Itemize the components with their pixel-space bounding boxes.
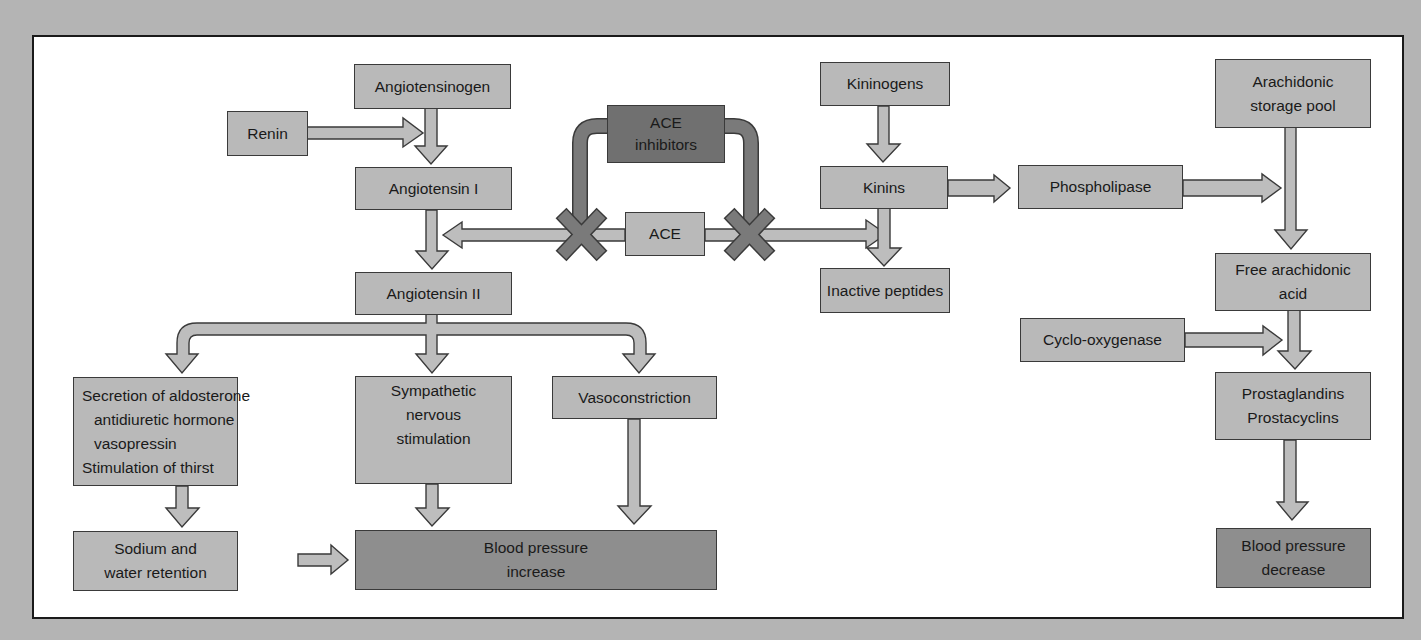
node-sodium-water-retention: Sodium and water retention	[73, 531, 238, 591]
node-ace: ACE	[625, 212, 705, 256]
arrow-renin	[307, 118, 423, 147]
node-kininogens: Kininogens	[820, 62, 950, 106]
arrow-angiotensin1-to-angiotensin2	[416, 210, 448, 269]
node-phospholipase: Phospholipase	[1018, 165, 1183, 209]
node-sympathetic-stimulation: Sympathetic nervous stimulation	[355, 376, 512, 484]
arrow-kininogens-to-kinins	[867, 106, 900, 162]
node-ace-inhibitors: ACE inhibitors	[607, 105, 725, 163]
node-free-arachidonic-acid: Free arachidonic acid	[1215, 253, 1371, 311]
node-angiotensin-1: Angiotensin I	[355, 167, 512, 210]
node-inactive-peptides: Inactive peptides	[820, 268, 950, 313]
arrow-angiotensin2-branch	[166, 314, 655, 373]
node-kinins: Kinins	[820, 166, 948, 209]
node-angiotensin-2: Angiotensin II	[355, 272, 512, 315]
arrow-secretion-to-sodium	[166, 486, 199, 527]
arrow-sympathetic-to-bp-increase	[416, 484, 449, 526]
node-prostaglandins: Prostaglandins Prostacyclins	[1215, 372, 1371, 440]
arrow-prostaglandins-to-bp-decrease	[1277, 440, 1308, 520]
node-secretion: Secretion of aldosterone antidiuretic ho…	[73, 377, 238, 486]
arrow-vasoconstriction-to-bp-increase	[618, 419, 651, 524]
arrow-sodium-to-bp-increase	[298, 545, 348, 574]
arrow-cyclooxygenase	[1185, 326, 1282, 355]
arrow-phospholipase	[1183, 174, 1281, 202]
node-blood-pressure-increase: Blood pressure increase	[355, 530, 717, 590]
arrow-free-to-prostaglandins	[1278, 310, 1311, 369]
node-arachidonic-storage-pool: Arachidonic storage pool	[1215, 59, 1371, 128]
node-renin: Renin	[227, 111, 308, 156]
arrow-kinins-to-phospholipase	[948, 175, 1010, 202]
node-blood-pressure-decrease: Blood pressure decrease	[1216, 528, 1371, 588]
node-angiotensinogen: Angiotensinogen	[354, 64, 511, 109]
node-cyclo-oxygenase: Cyclo-oxygenase	[1020, 318, 1185, 362]
node-vasoconstriction: Vasoconstriction	[552, 376, 717, 419]
